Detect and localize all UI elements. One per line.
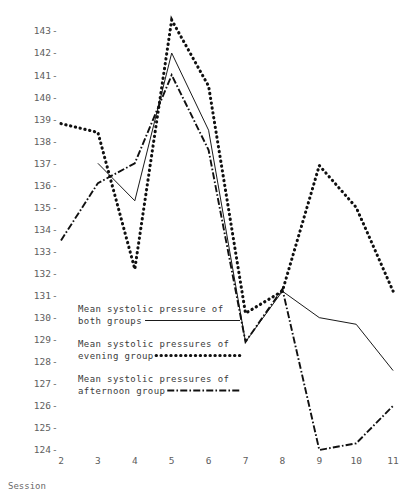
y-axis-tick-label: 135 — [34, 202, 51, 213]
y-axis-tick-mark: - — [52, 246, 58, 257]
y-axis-tick-label: 134 — [34, 224, 51, 235]
y-axis-tick-label: 136 — [34, 180, 51, 191]
y-axis-tick-mark: - — [52, 180, 58, 191]
x-axis-tick-label: 2 — [58, 455, 64, 466]
x-axis-title: Session — [8, 481, 46, 491]
y-axis-tick-label: 137 — [34, 158, 51, 169]
y-axis-tick-label: 126 — [34, 400, 51, 411]
systolic-pressure-line-chart: 143-142-141-140-139-138-137-136-135-134-… — [0, 0, 420, 503]
legend-label-line2: evening group — [78, 351, 154, 361]
chart-legend: Mean systolic pressure ofboth groupsMean… — [78, 304, 240, 396]
y-axis-tick-label: 129 — [34, 334, 51, 345]
legend-label-line1: Mean systolic pressures of — [78, 339, 229, 349]
y-axis-tick-group: 143-142-141-140-139-138-137-136-135-134-… — [34, 25, 58, 455]
x-axis-tick-label: 6 — [206, 455, 212, 466]
y-axis-tick-mark: - — [52, 92, 58, 103]
y-axis-tick-label: 140 — [34, 92, 51, 103]
y-axis-tick-mark: - — [52, 378, 58, 389]
x-axis-tick-label: 3 — [95, 455, 101, 466]
x-axis-tick-group: 234567891011 — [58, 455, 399, 466]
series-line-1 — [98, 53, 393, 371]
y-axis-tick-mark: - — [52, 422, 58, 433]
y-axis-tick-mark: - — [52, 334, 58, 345]
y-axis-tick-mark: - — [52, 268, 58, 279]
x-axis-tick-label: 11 — [387, 455, 399, 466]
x-axis-tick-label: 9 — [316, 455, 322, 466]
y-axis-tick-label: 132 — [34, 268, 51, 279]
y-axis-tick-label: 127 — [34, 378, 51, 389]
x-axis-tick-label: 4 — [132, 455, 138, 466]
y-axis-tick-mark: - — [52, 400, 58, 411]
y-axis-tick-label: 143 — [34, 25, 51, 36]
y-axis-tick-mark: - — [52, 158, 58, 169]
y-axis-tick-label: 124 — [34, 444, 51, 455]
y-axis-tick-mark: - — [52, 224, 58, 235]
y-axis-tick-label: 138 — [34, 136, 51, 147]
x-axis-tick-label: 10 — [350, 455, 362, 466]
y-axis-tick-mark: - — [52, 25, 58, 36]
y-axis-tick-label: 139 — [34, 114, 51, 125]
y-axis-tick-mark: - — [52, 312, 58, 323]
legend-label-line2: both groups — [78, 316, 142, 326]
chart-canvas: 143-142-141-140-139-138-137-136-135-134-… — [0, 0, 420, 503]
y-axis-tick-mark: - — [52, 356, 58, 367]
y-axis-tick-label: 133 — [34, 246, 51, 257]
y-axis-tick-mark: - — [52, 444, 58, 455]
x-axis-tick-label: 8 — [280, 455, 286, 466]
y-axis-tick-label: 141 — [34, 70, 51, 81]
y-axis-tick-label: 142 — [34, 47, 51, 58]
y-axis-tick-mark: - — [52, 114, 58, 125]
y-axis-tick-mark: - — [52, 290, 58, 301]
y-axis-tick-mark: - — [52, 136, 58, 147]
y-axis-tick-label: 130 — [34, 312, 51, 323]
y-axis-tick-label: 128 — [34, 356, 51, 367]
y-axis-tick-mark: - — [52, 70, 58, 81]
legend-label-line2: afternoon group — [78, 386, 165, 396]
y-axis-tick-mark: - — [52, 202, 58, 213]
y-axis-tick-label: 125 — [34, 422, 51, 433]
legend-label-line1: Mean systolic pressures of — [78, 374, 229, 384]
series-line-2 — [61, 20, 393, 313]
y-axis-tick-label: 131 — [34, 290, 51, 301]
x-axis-tick-label: 7 — [243, 455, 249, 466]
x-axis-tick-label: 5 — [169, 455, 175, 466]
legend-label-line1: Mean systolic pressure of — [78, 304, 223, 314]
y-axis-tick-mark: - — [52, 47, 58, 58]
